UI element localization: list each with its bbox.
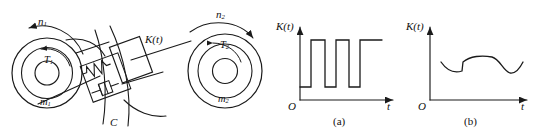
plot-b-curve — [441, 56, 523, 73]
right-torque-label: T2 — [220, 40, 229, 51]
plot-b-y-axis-label: K(t) — [406, 21, 424, 32]
right-mass-label: m2 — [218, 94, 229, 105]
left-speed-label: n1 — [38, 16, 47, 28]
left-torque-label: T1 — [44, 55, 53, 66]
plot-a-square-wave — [300, 40, 382, 87]
plot-a-caption: (a) — [333, 116, 345, 127]
shaft-stiffness-label: K(t) — [145, 34, 163, 45]
left-mass-label: m1 — [40, 97, 51, 108]
plot-a-x-axis-label: t — [387, 101, 390, 112]
plot-a-y-axis-label: K(t) — [276, 21, 294, 32]
plot-a-origin-label: O — [288, 101, 296, 112]
coupling-assembly — [77, 36, 155, 102]
plot-b-x-axis-label: t — [521, 101, 524, 112]
plot-b-caption: (b) — [464, 116, 477, 127]
plot-b — [430, 27, 527, 100]
coil-spring — [81, 59, 112, 80]
right-speed-arrow — [190, 23, 253, 38]
right-speed-label: n2 — [216, 9, 225, 21]
figure-canvas: n1 T1 m1 n2 T2 m2 K(t) C K(t) t O (a) K(… — [0, 0, 554, 135]
plot-b-origin-label: O — [418, 101, 426, 112]
plot-a — [300, 27, 393, 100]
damper-label: C — [110, 117, 117, 128]
